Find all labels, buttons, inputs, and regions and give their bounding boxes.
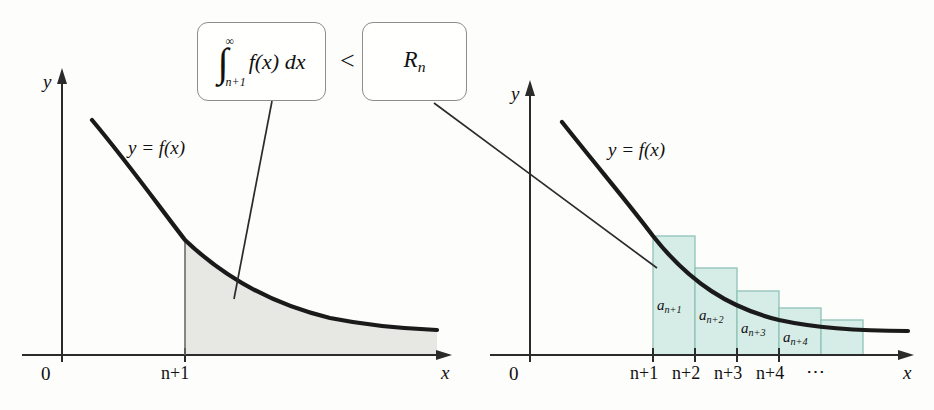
right-xtick-label-n1: n+1 — [630, 364, 658, 382]
integral-leader-line — [234, 101, 272, 299]
left-shaded-region — [185, 240, 437, 355]
right-xaxis-ellipsis: ⋯ — [806, 362, 827, 381]
rect-label-a-n2: an+2 — [699, 308, 724, 325]
integral-sign-icon: ∫ — [218, 47, 229, 79]
right-origin-label: 0 — [509, 364, 519, 383]
left-origin-label: 0 — [41, 364, 51, 383]
left-chart-group — [22, 68, 452, 362]
rn-base: R — [404, 47, 418, 72]
integral-expression: ∫ ∞ n+1 f(x) dx — [218, 40, 306, 84]
figure-canvas: ∫ ∞ n+1 f(x) dx < Rn y x 0 n+1 y = f(x) … — [0, 0, 934, 410]
right-x-axis-label: x — [903, 363, 911, 382]
right-x-axis-arrow — [898, 350, 914, 360]
rn-leader-line — [434, 103, 657, 268]
rect-a-n5 — [821, 320, 863, 355]
integrand: f(x) dx — [249, 49, 306, 75]
rn-callout-box[interactable]: Rn — [362, 22, 467, 101]
left-xtick-label-n1: n+1 — [161, 364, 189, 382]
left-y-axis-label: y — [43, 72, 51, 91]
left-curve-label: y = f(x) — [128, 138, 185, 157]
right-y-axis-label: y — [511, 84, 519, 103]
rect-label-a-n1: an+1 — [657, 298, 682, 315]
right-xtick-label-n4: n+4 — [756, 364, 784, 382]
rect-label-a-n3: an+3 — [741, 321, 766, 338]
rn-subscript: n — [418, 58, 426, 75]
right-xtick-label-n2: n+2 — [672, 364, 700, 382]
right-curve-label: y = f(x) — [608, 140, 665, 159]
left-y-axis-arrow — [57, 68, 67, 84]
rect-label-a-n4: an+4 — [783, 330, 808, 347]
relation-less-than: < — [340, 46, 355, 76]
right-xtick-label-n3: n+3 — [714, 364, 742, 382]
rn-expression: Rn — [404, 47, 426, 76]
integral-callout-box[interactable]: ∫ ∞ n+1 f(x) dx — [197, 22, 326, 101]
right-y-axis-arrow — [525, 80, 535, 96]
left-x-axis-arrow — [436, 350, 452, 360]
diagram-vector-layer — [0, 0, 934, 410]
left-x-axis-label: x — [441, 363, 449, 382]
rect-a-n1 — [653, 236, 695, 355]
